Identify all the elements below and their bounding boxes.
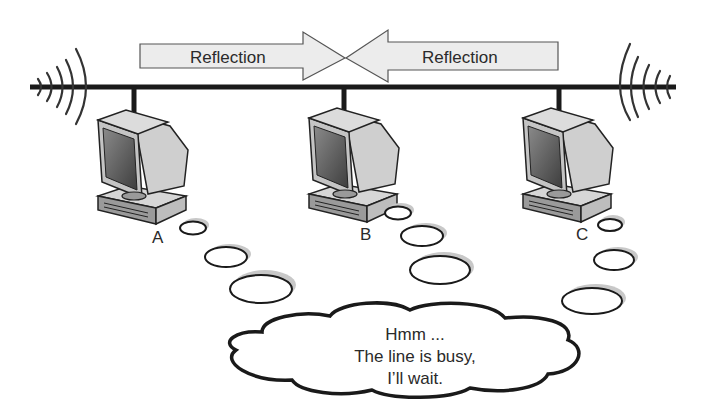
thought-bubbles-c [562,215,638,314]
thought-line-1: Hmm ... [300,324,530,346]
diagram-canvas: Reflection Reflection A B C Hmm ... The … [0,0,705,414]
computer-a-icon [98,110,188,224]
node-label-b: B [360,225,371,245]
computer-b-icon [309,108,399,222]
computer-c-icon [523,108,613,222]
reflection-label-left: Reflection [190,48,266,68]
thought-bubbles-b [385,203,474,284]
node-label-a: A [152,228,163,248]
thought-line-3: I’ll wait. [300,368,530,390]
thought-bubbles-a [180,218,296,303]
signal-wave-right-icon [620,44,670,120]
thought-text: Hmm ... The line is busy, I’ll wait. [300,324,530,390]
reflection-label-right: Reflection [422,48,498,68]
node-label-c: C [576,225,588,245]
thought-line-2: The line is busy, [300,346,530,368]
